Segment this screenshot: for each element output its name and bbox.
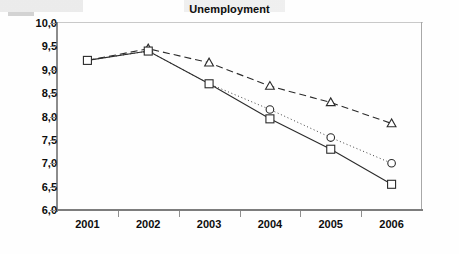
data-point-square-2005: [327, 145, 335, 153]
series-line-square: [87, 51, 391, 184]
data-point-square-2006: [388, 180, 396, 188]
data-point-square-2004: [266, 115, 274, 123]
data-point-circle-2005: [327, 134, 335, 142]
data-point-circle-2006: [388, 159, 396, 167]
data-point-square-2003: [205, 80, 213, 88]
data-point-square-2002: [144, 47, 152, 55]
series-line-triangle: [87, 49, 391, 124]
data-point-circle-2004: [266, 106, 274, 114]
data-point-square-2001: [83, 56, 91, 64]
series-plot-layer: [0, 0, 459, 254]
unemployment-line-chart: Unemployment 10,09,59,08,58,07,57,06,56,…: [0, 0, 459, 254]
data-point-triangle-2005: [326, 98, 335, 106]
data-point-triangle-2004: [266, 82, 275, 90]
